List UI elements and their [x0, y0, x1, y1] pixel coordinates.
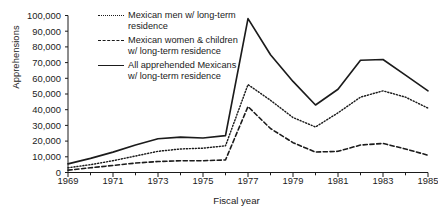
legend-item-label-line2: w/ long-term residence — [128, 71, 221, 81]
legend-item-label: Mexican men w/ long-termresidence — [128, 10, 236, 31]
series-line-dotted — [68, 85, 428, 168]
legend-item: Mexican men w/ long-termresidence — [98, 10, 288, 31]
legend-line-sample-dashed — [98, 35, 124, 45]
legend-item: All apprehended Mexicansw/ long-term res… — [98, 60, 288, 81]
legend-item-label-line2: w/ long-term residence — [128, 46, 221, 56]
legend-item-label-line2: residence — [128, 21, 168, 31]
series-line-dashed — [68, 107, 428, 171]
legend-item: Mexican women & childrenw/ long-term res… — [98, 35, 288, 56]
legend-item-label: All apprehended Mexicansw/ long-term res… — [128, 60, 236, 81]
legend-item-label-line1: Mexican men w/ long-term — [128, 10, 236, 20]
legend-line-sample-dotted — [98, 10, 124, 20]
legend-item-label: Mexican women & childrenw/ long-term res… — [128, 35, 238, 56]
chart-legend: Mexican men w/ long-termresidenceMexican… — [98, 10, 288, 86]
legend-item-label-line1: Mexican women & children — [128, 35, 238, 45]
legend-line-sample-solid — [98, 60, 124, 70]
legend-item-label-line1: All apprehended Mexicans — [128, 60, 236, 70]
